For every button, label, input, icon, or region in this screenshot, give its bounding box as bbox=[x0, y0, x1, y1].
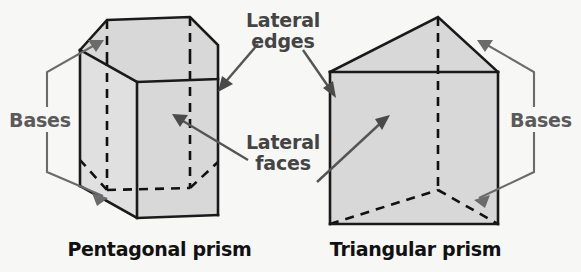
triangular-prism-graphic bbox=[330, 17, 498, 224]
lateral-faces-label-line2: faces bbox=[255, 152, 311, 174]
pentagonal-prism-front-lateral-face bbox=[137, 79, 218, 218]
lateral-faces-label: Lateral faces bbox=[237, 132, 329, 175]
lateral-edges-label-line2: edges bbox=[251, 30, 314, 52]
bases-right-label: Bases bbox=[505, 110, 577, 131]
bases-left-label: Bases bbox=[4, 110, 76, 131]
pentagonal-prism-caption: Pentagonal prism bbox=[57, 238, 262, 260]
lateral-edges-arrowhead-left bbox=[218, 76, 233, 92]
prism-diagram-figure: Lateral edges Lateral faces Bases Bases … bbox=[0, 0, 581, 272]
triangular-prism-caption: Triangular prism bbox=[313, 238, 518, 260]
lateral-faces-label-line1: Lateral bbox=[246, 131, 320, 153]
lateral-edges-label-line1: Lateral bbox=[246, 9, 320, 31]
triangular-prism-top-base-fill bbox=[330, 17, 498, 72]
lateral-edges-label: Lateral edges bbox=[237, 10, 329, 53]
pentagonal-prism-graphic bbox=[80, 17, 218, 218]
